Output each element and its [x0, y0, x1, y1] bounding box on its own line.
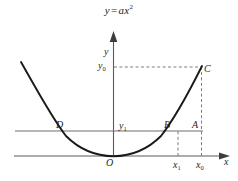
plot-canvas [0, 0, 238, 181]
y-axis [110, 31, 118, 156]
x-tick-label-x1: x1 [173, 160, 181, 170]
point-label-A: A [192, 120, 198, 130]
point-label-D: D [56, 120, 63, 130]
x-axis-label: x [224, 157, 228, 167]
y-tick-y1-sub: 1 [123, 125, 126, 132]
parabola-curve [21, 62, 202, 156]
point-label-C: C [204, 64, 211, 74]
x-tick-label-x0: x0 [196, 160, 204, 170]
point-label-B: B [164, 120, 170, 130]
x-tick-x1-sub: 1 [177, 164, 180, 171]
origin-label: O [106, 158, 113, 168]
y-axis-label: y [104, 47, 108, 57]
x-tick-x0-sub: 0 [200, 164, 203, 171]
y-tick-label-y0: y0 [98, 61, 106, 71]
y-tick-y0-sub: 0 [102, 65, 105, 72]
math-figure: y=ax2 y x O y0 y1 x1 x0 C D B [0, 0, 238, 181]
y-tick-label-y1: y1 [119, 121, 127, 131]
